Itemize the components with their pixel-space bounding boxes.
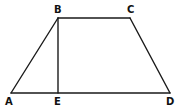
segments [11, 18, 170, 93]
label-e: E [54, 96, 61, 106]
trapezoid-diagram: A B C D E [0, 0, 178, 106]
label-c: C [127, 4, 134, 15]
label-d: D [166, 96, 174, 106]
label-a: A [5, 96, 13, 106]
segment-cd [130, 18, 170, 93]
segment-ab [11, 18, 58, 93]
vertex-labels: A B C D E [5, 4, 174, 106]
label-b: B [54, 4, 62, 15]
